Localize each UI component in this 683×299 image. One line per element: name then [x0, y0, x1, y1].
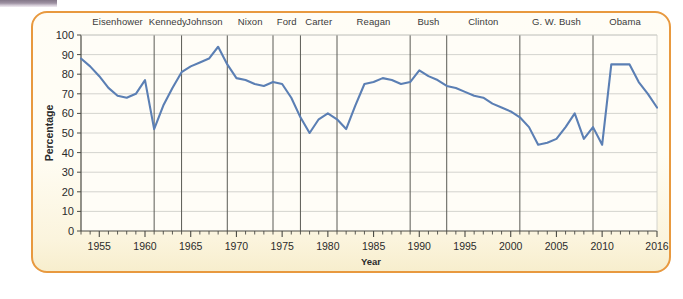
svg-text:1985: 1985 [362, 240, 386, 252]
chart-figure-frame: EisenhowerKennedyJohnsonNixonFordCarterR… [31, 11, 671, 273]
svg-text:1970: 1970 [225, 240, 249, 252]
svg-text:2016: 2016 [645, 240, 669, 252]
svg-text:2010: 2010 [590, 240, 614, 252]
svg-text:40: 40 [62, 147, 74, 159]
svg-text:2005: 2005 [545, 240, 569, 252]
svg-text:70: 70 [62, 88, 74, 100]
svg-text:1960: 1960 [133, 240, 157, 252]
svg-text:30: 30 [62, 166, 74, 178]
x-axis-label: Year [361, 256, 381, 267]
svg-text:1955: 1955 [88, 240, 112, 252]
y-axis-label: Percentage [43, 105, 55, 162]
top-purple-band [0, 0, 57, 7]
svg-text:0: 0 [68, 225, 74, 237]
chart-plot-area: 0102030405060708090100 19551960196519701… [33, 13, 671, 273]
svg-text:1965: 1965 [179, 240, 203, 252]
svg-text:50: 50 [62, 127, 74, 139]
svg-text:90: 90 [62, 49, 74, 61]
svg-text:1975: 1975 [270, 240, 294, 252]
svg-text:60: 60 [62, 107, 74, 119]
svg-text:80: 80 [62, 68, 74, 80]
svg-text:100: 100 [56, 29, 74, 41]
svg-text:10: 10 [62, 205, 74, 217]
y-axis-tick-labels: 0102030405060708090100 [56, 29, 81, 237]
svg-text:2000: 2000 [499, 240, 523, 252]
svg-text:20: 20 [62, 186, 74, 198]
svg-text:1990: 1990 [408, 240, 432, 252]
svg-text:1980: 1980 [316, 240, 340, 252]
line-chart-svg: 0102030405060708090100 19551960196519701… [33, 13, 671, 273]
x-axis-tick-labels: 1955196019651970197519801985199019952000… [88, 240, 669, 252]
x-axis-ticks [81, 231, 657, 237]
svg-text:1995: 1995 [453, 240, 477, 252]
